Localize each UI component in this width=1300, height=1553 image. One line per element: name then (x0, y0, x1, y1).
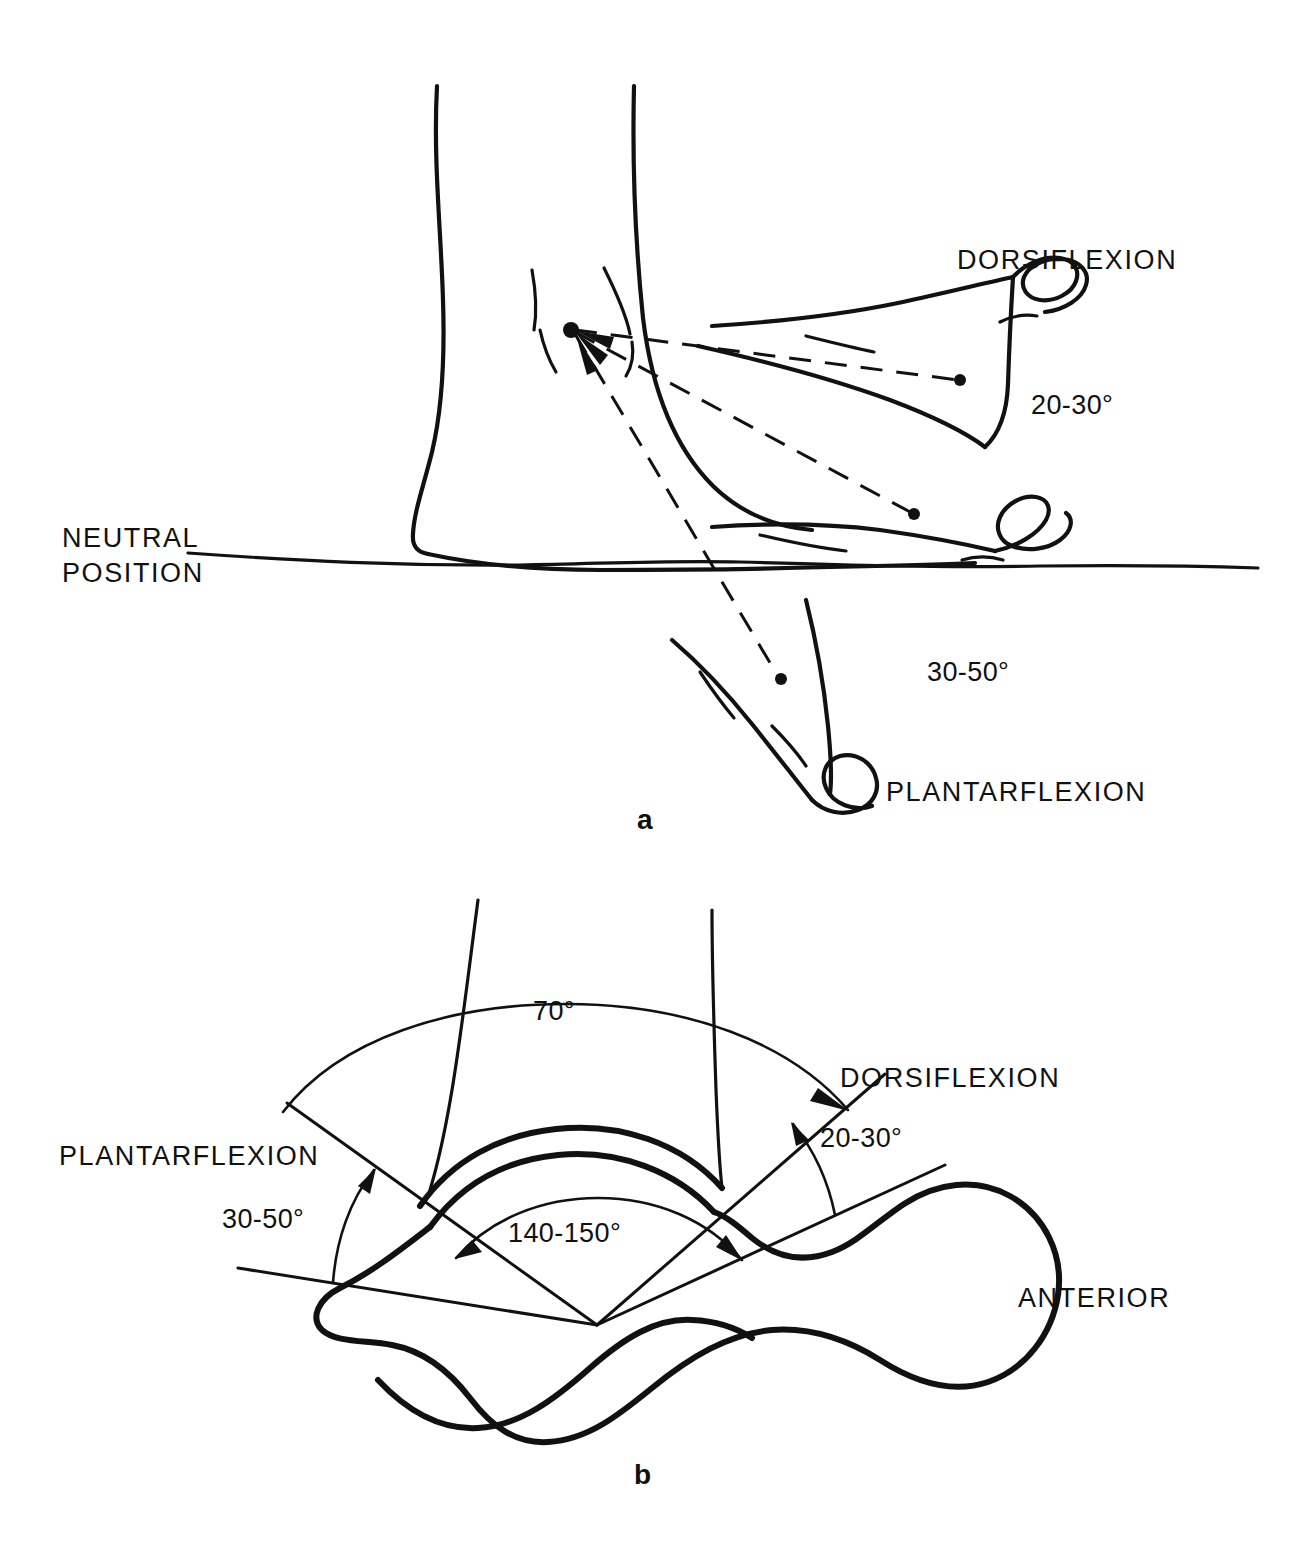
label-plantarflexion-panel-b: PLANTARFLEXION (59, 1139, 319, 1174)
label-anterior-panel-b: ANTERIOR (1018, 1281, 1170, 1316)
tibia-shaft-line (430, 900, 478, 1190)
talus-body-outline (316, 1185, 1059, 1443)
arrowhead-arc-talar-left (455, 1240, 482, 1259)
label-plantarflexion-angle-panel-b: 30-50° (222, 1204, 304, 1235)
label-total-range-angle-panel-b: 70° (533, 996, 575, 1027)
talar-dome-outer-arc (420, 1128, 722, 1206)
talar-dome-inner-arc (430, 1154, 714, 1227)
degree-symbol-talar-dome: ° (610, 1218, 621, 1248)
panel-b-drawing (0, 0, 1300, 1553)
anatomy-figure: DORSIFLEXION 20-30° NEUTRAL POSITION 30-… (0, 0, 1300, 1553)
degree-symbol-plantarflexion-b: ° (293, 1204, 304, 1234)
talus-sulcus-curve (378, 1320, 752, 1428)
degree-symbol-total-range: ° (564, 996, 575, 1026)
ray-neutral-horizontal-right (597, 1165, 945, 1325)
label-dorsiflexion-angle-panel-b: 20-30° (820, 1123, 902, 1154)
fibula-shaft-line (712, 910, 722, 1188)
ray-neutral-horizontal-left (238, 1268, 597, 1325)
label-dorsiflexion-panel-b: DORSIFLEXION (840, 1061, 1060, 1096)
degree-symbol-dorsiflexion-b: ° (891, 1123, 902, 1153)
label-talar-dome-angle: 140-150° (508, 1218, 621, 1249)
ray-dorsiflexion-direction (597, 1074, 885, 1325)
panel-letter-b: b (634, 1459, 651, 1491)
